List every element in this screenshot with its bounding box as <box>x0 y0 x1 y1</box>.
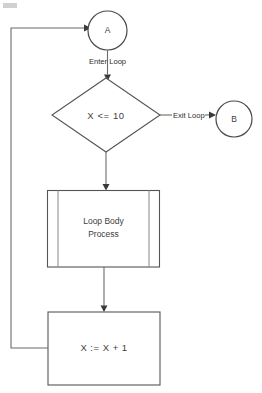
arrow-head-into-connector-b <box>209 112 216 119</box>
flowchart-svg: A Enter Loop X <= 10 Exit Loop B <box>0 0 262 393</box>
connector-b-label: B <box>231 114 237 124</box>
connector-a-label: A <box>105 25 111 35</box>
enter-loop-label: Enter Loop <box>89 57 126 66</box>
exit-loop-label: Exit Loop <box>173 111 205 120</box>
arrow-head-into-loop-body <box>103 184 110 191</box>
edge-exit-loop: Exit Loop <box>160 111 216 120</box>
loop-body-label-line2: Process <box>88 229 119 239</box>
arrow-head-into-increment <box>101 306 108 313</box>
edge-feedback-to-connector-a <box>11 25 91 349</box>
node-decision[interactable]: X <= 10 <box>52 78 160 152</box>
decision-label: X <= 10 <box>87 110 124 121</box>
increment-label: X := X + 1 <box>80 342 127 353</box>
node-connector-a[interactable]: A <box>88 11 127 50</box>
flowchart-canvas: A Enter Loop X <= 10 Exit Loop B <box>0 0 262 393</box>
edge-loop-body-to-increment <box>101 267 108 312</box>
edge-enter-loop: Enter Loop <box>89 50 126 81</box>
loop-body-label-line1: Loop Body <box>83 216 124 226</box>
node-connector-b[interactable]: B <box>216 101 252 137</box>
edge-decision-to-loop-body <box>103 152 110 191</box>
node-loop-body-process[interactable]: Loop Body Process <box>48 191 160 268</box>
node-increment-process[interactable]: X := X + 1 <box>48 312 160 385</box>
